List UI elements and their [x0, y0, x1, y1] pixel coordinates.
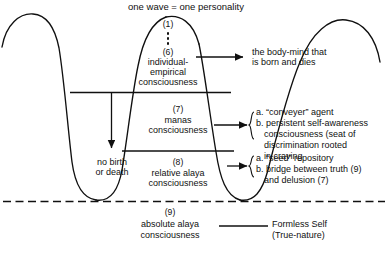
- callout-alaya-line3: and delusion (7): [264, 176, 388, 186]
- diagram-title: one wave = one personality: [96, 2, 276, 12]
- level-7-number: (7): [160, 105, 196, 114]
- level-9-label-line2: consciousness: [122, 231, 218, 241]
- callout-alaya-line2: b. bridge between truth (9): [256, 165, 388, 175]
- level-9-number: (9): [152, 208, 188, 217]
- callout-manas-line2: b. persistent self-awareness: [256, 119, 388, 129]
- callout-manas-line1: a. “conveyer” agent: [256, 108, 388, 118]
- level-1-6-label-line3: consciousness: [120, 78, 216, 88]
- dot-2: [167, 37, 170, 40]
- dot-3: [167, 42, 170, 45]
- level-7-label-line2: consciousness: [130, 126, 226, 136]
- callout-formless-self-line1: Formless Self: [272, 220, 388, 230]
- ellipsis-dots: [167, 32, 170, 45]
- level-9-label-line1: absolute alaya: [124, 220, 216, 230]
- callout-alaya-line1: a. “seed” repository: [256, 154, 388, 164]
- level-6-number: (6): [150, 48, 186, 57]
- diagram-canvas: one wave = one personality (1) (6) indiv…: [0, 0, 388, 253]
- level-1-number: (1): [150, 20, 186, 29]
- callout-manas-line3: consciousness (seat of: [264, 130, 388, 140]
- callout-body-mind-line2: is born and dies: [252, 58, 386, 68]
- dot-1: [167, 32, 170, 35]
- callout-formless-self-line2: (True-nature): [272, 231, 388, 241]
- level-8-label-line2: consciousness: [130, 179, 226, 189]
- callout-brace-manas: [249, 112, 254, 139]
- callout-brace-alaya: [249, 156, 254, 177]
- level-8-number: (8): [160, 158, 196, 167]
- callout-manas-line4: discrimination rooted: [264, 141, 388, 151]
